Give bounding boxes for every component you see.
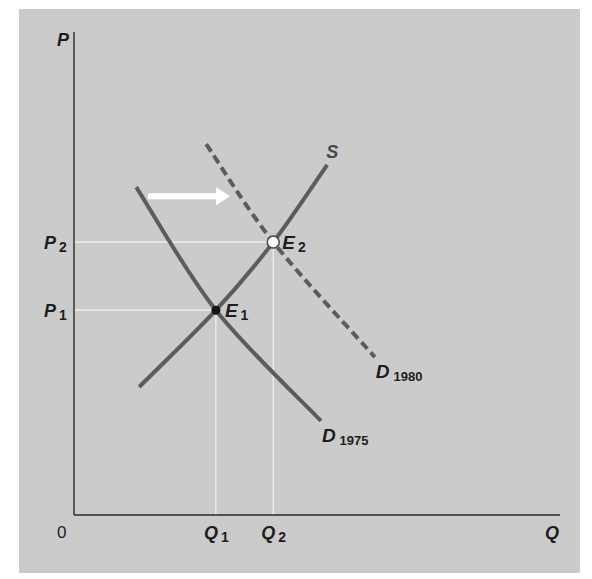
y-tick-label-2-main: P [44, 233, 57, 253]
curve-label-s: S [326, 142, 338, 162]
origin-label: 0 [57, 523, 66, 542]
equilibrium-label-e2-main: E [282, 232, 296, 253]
y-tick-label-2-sub: 2 [59, 239, 67, 255]
curve-label-d1975-sub: 1975 [340, 433, 369, 448]
x-tick-label-2-main: Q [261, 523, 275, 543]
y-axis-label: P [57, 30, 70, 50]
x-tick-label-1-main: Q [204, 523, 218, 543]
chart-panel [19, 9, 580, 573]
y-tick-label-1-sub: 1 [59, 307, 67, 323]
curve-label-d1975-main: D [322, 425, 336, 446]
equilibrium-point-e1 [211, 306, 220, 315]
supply-demand-chart: P Q 0 P1P2Q1Q2SD1975D1980E1E2 [0, 0, 592, 579]
x-tick-label-1-sub: 1 [221, 529, 229, 545]
equilibrium-label-e2-sub: 2 [298, 239, 306, 255]
curve-label-d1980-sub: 1980 [394, 369, 423, 384]
curve-label-d1980-main: D [376, 361, 390, 382]
equilibrium-point-e2 [267, 236, 279, 248]
x-tick-label-2-sub: 2 [278, 529, 286, 545]
equilibrium-label-e1-main: E [225, 300, 239, 321]
x-axis-label: Q [545, 523, 559, 543]
equilibrium-label-e1-sub: 1 [241, 307, 249, 323]
y-tick-label-1-main: P [44, 301, 57, 321]
